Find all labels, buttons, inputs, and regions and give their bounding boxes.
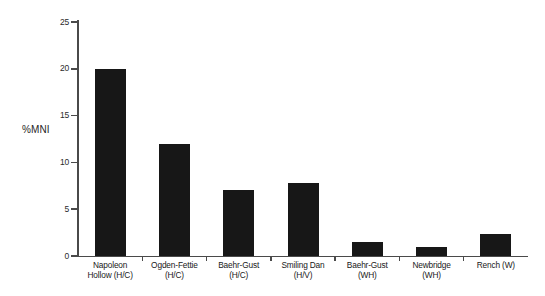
y-axis-tick-mark [71,21,77,23]
x-axis-category-label: Smiling Dan (H/V) [271,261,335,280]
x-axis-category-label: Napoleon Hollow (H/C) [78,261,142,280]
bar [352,242,383,256]
bar [159,144,190,256]
x-axis-category-label: Baehr-Gust (H/C) [207,261,271,280]
y-axis-tick-mark [71,68,77,70]
bar [223,190,254,256]
bar [288,183,319,256]
y-axis-tick-label: 20 [44,63,69,73]
bar [95,69,126,256]
x-axis-category-label: Baehr-Gust (WH) [335,261,399,280]
bar [416,247,447,256]
bar [480,234,511,256]
bar-chart-figure: %MNI 0510152025 Napoleon Hollow (H/C)Ogd… [0,0,545,296]
y-axis-tick-label: 5 [44,204,69,214]
y-axis-tick-mark [71,162,77,164]
plot-area [78,22,528,256]
y-axis-tick-mark [71,208,77,210]
y-axis-tick-label: 15 [44,110,69,120]
y-axis-tick-mark [71,115,77,117]
x-axis-category-label: Ogden-Fettie (H/C) [142,261,206,280]
y-axis-title: %MNI [22,124,50,135]
y-axis-tick-mark [71,255,77,257]
x-axis-category-label: Newbridge (WH) [399,261,463,280]
x-axis-category-label: Rench (W) [464,261,528,271]
y-axis-tick-label: 0 [44,251,69,261]
y-axis-tick-label: 25 [44,17,69,27]
y-axis-tick-label: 10 [44,157,69,167]
